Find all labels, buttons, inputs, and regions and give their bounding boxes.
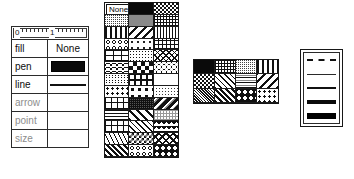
fill-swatch-fine-dots[interactable] [129,50,153,62]
property-value-fill[interactable]: None [48,40,88,57]
property-label-size: size [12,130,48,148]
pen-swatch-banded-gray[interactable] [236,74,257,88]
property-value-size [48,130,88,148]
property-label-fill: fill [12,40,48,57]
fill-swatch-zigzag[interactable] [129,133,153,145]
line-width-option-dashed-hairline[interactable] [304,53,339,67]
fill-swatch-grid[interactable] [154,39,178,51]
fill-swatch-diagonal-left-bold[interactable] [129,27,153,39]
ruler-one-label: 1 [49,27,55,39]
fill-swatch-dots[interactable] [105,86,129,98]
fill-swatch-fish-scale[interactable] [105,62,129,74]
fill-swatch-crosshatch[interactable] [154,50,178,62]
fill-swatch-plus-grid[interactable] [105,121,129,133]
fill-swatch-wave[interactable] [105,74,129,86]
property-row-arrow: arrow [12,94,88,112]
fill-swatch-none[interactable]: None [105,3,129,15]
pen-swatch-checker-dense[interactable] [194,74,215,88]
fill-pattern-palette[interactable]: None [104,2,179,158]
fill-swatch-brick[interactable] [105,50,129,62]
fill-swatch-boxes[interactable] [129,74,153,86]
fill-swatch-light-grid[interactable] [154,110,178,122]
property-value-text-fill: None [56,43,80,54]
fill-swatch-large-dots[interactable] [129,86,153,98]
fill-swatch-checker-dense[interactable] [154,3,178,15]
fill-swatch-houndstooth[interactable] [105,145,129,157]
property-value-arrow [48,94,88,111]
property-value-point [48,112,88,129]
line-preview-width-4 [307,100,336,104]
fill-swatch-white[interactable] [154,74,178,86]
pen-color-swatch[interactable] [51,61,85,72]
property-label-arrow: arrow [12,94,48,111]
fill-none-label[interactable]: None [106,4,129,15]
fill-swatch-gray-75[interactable] [129,98,153,110]
measurement-ruler[interactable]: 0 1 [12,27,88,40]
fill-swatch-gray-25[interactable] [105,15,129,27]
line-preview-dashed-hairline [307,59,336,61]
fill-swatch-vertical-bars[interactable] [105,27,129,39]
property-label-pen: pen [12,58,48,75]
fill-swatch-diagonal-right[interactable] [129,121,153,133]
fill-swatch-triangles[interactable] [154,121,178,133]
line-width-option-width-4[interactable] [304,95,339,109]
fill-swatch-solid-black[interactable] [129,3,153,15]
line-width-option-width-1[interactable] [304,67,339,81]
line-preview-width-6 [307,113,336,119]
property-value-pen[interactable] [48,58,88,75]
fill-swatch-vertical-lines[interactable] [154,27,178,39]
property-label-line: line [12,76,48,93]
fill-swatch-coarse-grid[interactable] [105,98,129,110]
fill-swatch-crosshatch-bold[interactable] [154,133,178,145]
line-width-palette[interactable] [300,49,343,127]
pen-swatch-houndstooth[interactable] [215,89,236,103]
screenshot-canvas: 0 1 fillNonepenlinearrowpointsize None [0,0,354,179]
property-label-point: point [12,112,48,129]
pen-swatch-stars[interactable] [236,89,257,103]
pen-swatch-vertical-bars[interactable] [257,60,278,74]
fill-swatch-gray-50-flat[interactable] [129,15,153,27]
pen-swatch-gray-25[interactable] [236,60,257,74]
pen-swatch-gray-50[interactable] [194,89,215,103]
fill-swatch-thatch[interactable] [105,133,129,145]
ruler-zero-label: 0 [14,27,20,39]
property-row-size: size [12,130,88,148]
fill-swatch-horizontal-lines[interactable] [105,110,129,122]
line-width-swatch[interactable] [50,84,86,86]
property-row-point: point [12,112,88,130]
line-preview-width-2 [307,87,336,89]
property-row-pen[interactable]: pen [12,58,88,76]
property-row-fill[interactable]: fillNone [12,40,88,58]
line-width-option-width-2[interactable] [304,81,339,95]
fill-swatch-rings[interactable] [105,39,129,51]
fill-pattern-grid: None [105,3,178,157]
fill-swatch-fine-grid[interactable] [154,15,178,27]
line-width-list [303,52,340,124]
pen-pattern-palette[interactable] [193,59,279,104]
fill-swatch-sparse-dots[interactable] [129,39,153,51]
fill-swatch-gray-12[interactable] [154,86,178,98]
pen-pattern-grid [194,60,278,103]
pen-swatch-dots[interactable] [257,89,278,103]
fill-swatch-diagonal-right-bold[interactable] [129,110,153,122]
pen-swatch-diagonal-left-bold[interactable] [257,74,278,88]
fill-swatch-rings-2[interactable] [129,145,153,157]
line-width-option-width-6[interactable] [304,109,339,123]
shape-properties-inspector: 0 1 fillNonepenlinearrowpointsize [11,26,89,148]
pen-swatch-fine-grid[interactable] [215,60,236,74]
property-row-list: fillNonepenlinearrowpointsize [12,40,88,148]
fill-swatch-stars[interactable] [154,145,178,157]
fill-swatch-checker-large[interactable] [129,62,153,74]
line-preview-width-1 [307,74,336,75]
pen-swatch-solid-black[interactable] [194,60,215,74]
fill-swatch-dark-diagonal[interactable] [154,98,178,110]
fill-swatch-bubbles[interactable] [154,62,178,74]
pen-swatch-diagonal-right[interactable] [215,74,236,88]
property-row-line[interactable]: line [12,76,88,94]
property-value-line[interactable] [48,76,88,93]
